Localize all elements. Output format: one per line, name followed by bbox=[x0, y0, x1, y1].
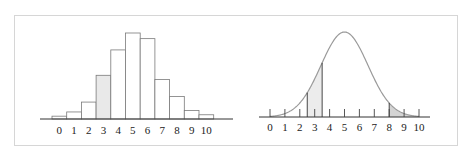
x-tick-label: 9 bbox=[189, 124, 195, 136]
x-tick-label: 0 bbox=[267, 121, 273, 133]
histogram-bar bbox=[155, 80, 170, 119]
x-tick-label: 8 bbox=[174, 124, 180, 136]
x-tick-label: 4 bbox=[115, 124, 121, 136]
histogram-bar bbox=[111, 50, 126, 119]
x-tick-label: 3 bbox=[101, 124, 107, 136]
x-tick-label: 10 bbox=[201, 124, 213, 136]
x-tick-label: 1 bbox=[282, 121, 288, 133]
histogram-bar bbox=[140, 39, 155, 119]
x-tick-label: 2 bbox=[86, 124, 92, 136]
normal-curve bbox=[270, 32, 419, 116]
x-tick-label: 7 bbox=[160, 124, 166, 136]
histogram-bar bbox=[170, 96, 185, 119]
histogram-bar bbox=[81, 102, 96, 119]
x-tick-label: 5 bbox=[130, 124, 136, 136]
histogram-bar bbox=[126, 33, 141, 119]
histogram-bar bbox=[184, 111, 199, 119]
normal-curve-chart: 012345678910 bbox=[259, 32, 430, 133]
histogram-bar bbox=[199, 115, 214, 119]
x-tick-label: 1 bbox=[71, 124, 77, 136]
histogram-bar bbox=[96, 75, 111, 119]
x-tick-label: 3 bbox=[312, 121, 318, 133]
x-tick-label: 9 bbox=[401, 121, 407, 133]
x-tick-label: 4 bbox=[327, 121, 333, 133]
x-tick-label: 6 bbox=[145, 124, 151, 136]
x-tick-label: 0 bbox=[57, 124, 63, 136]
x-tick-label: 8 bbox=[386, 121, 392, 133]
x-tick-label: 10 bbox=[414, 121, 426, 133]
x-tick-label: 2 bbox=[297, 121, 303, 133]
x-tick-label: 5 bbox=[342, 121, 348, 133]
histogram-chart: 012345678910 bbox=[40, 33, 233, 136]
x-tick-label: 7 bbox=[372, 121, 378, 133]
x-tick-label: 6 bbox=[357, 121, 363, 133]
figure-canvas: 012345678910 012345678910 bbox=[0, 0, 474, 157]
histogram-bar bbox=[67, 112, 82, 119]
